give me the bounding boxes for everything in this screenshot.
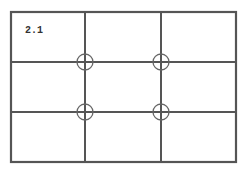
outer-frame [11, 12, 236, 162]
figure-label: 2.1 [25, 25, 43, 36]
